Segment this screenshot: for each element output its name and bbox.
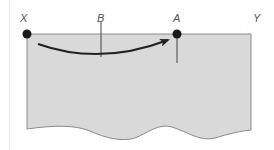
- label-y: Y: [253, 13, 260, 24]
- label-x: X: [20, 13, 27, 24]
- label-b: B: [97, 13, 104, 24]
- label-a: A: [173, 13, 180, 24]
- mechanics-diagram: [0, 0, 274, 150]
- point-a-dot: [173, 30, 182, 39]
- point-x-dot: [23, 30, 32, 39]
